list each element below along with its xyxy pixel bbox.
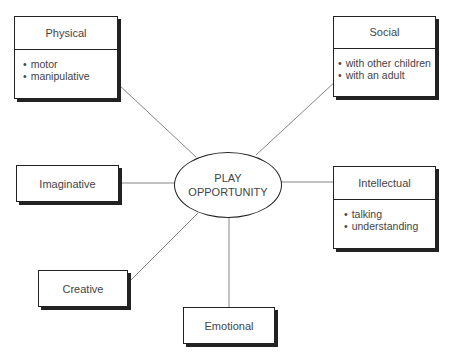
node-items: talking understanding [334,199,435,232]
node-creative: Creative [38,270,128,307]
center-node-play-opportunity: PLAY OPPORTUNITY [174,152,282,218]
node-title: Physical [15,17,117,49]
node-social: Social with other children with an adult [333,16,436,97]
list-item: with an adult [338,69,435,81]
list-item: manipulative [23,70,117,82]
node-intellectual: Intellectual talking understanding [333,166,436,249]
list-item: understanding [344,220,435,232]
node-items: motor manipulative [15,49,117,82]
list-item: with other children [338,57,435,69]
node-title: Intellectual [334,167,435,199]
connector-physical [118,84,196,157]
node-title: Social [334,17,435,48]
node-imaginative: Imaginative [16,165,119,202]
node-title: Creative [63,283,104,295]
node-title: Imaginative [39,178,95,190]
node-physical: Physical motor manipulative [14,16,118,99]
center-line-2: OPPORTUNITY [188,185,267,199]
connector-social [256,80,337,155]
node-items: with other children with an adult [334,48,435,81]
list-item: talking [344,208,435,220]
node-title: Emotional [205,320,254,332]
center-line-1: PLAY [214,171,241,185]
node-emotional: Emotional [183,307,275,344]
list-item: motor [23,58,117,70]
connector-creative [128,213,198,283]
